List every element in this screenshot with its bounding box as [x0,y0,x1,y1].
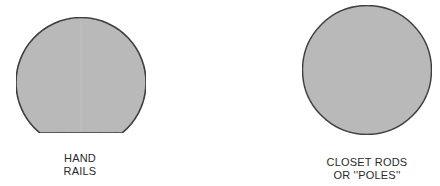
closet-rods-label-line-2: OR ''POLES'' [317,169,417,182]
hand-rails-label: HAND RAILS [40,152,120,178]
hand-rail-profile-shape [16,18,146,133]
hand-rails-label-line-2: RAILS [40,165,120,178]
closet-rod-profile-shape [303,6,432,135]
closet-rods-label: CLOSET RODS OR ''POLES'' [317,156,417,182]
closet-rods-label-line-1: CLOSET RODS [317,156,417,169]
hand-rails-label-line-1: HAND [40,152,120,165]
